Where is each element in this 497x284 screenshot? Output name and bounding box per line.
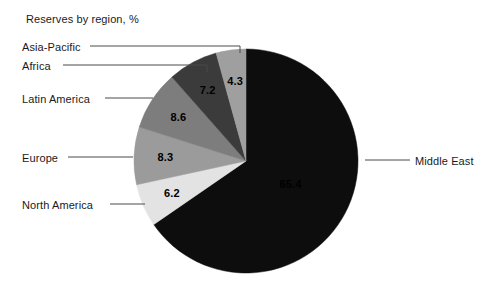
slice-value-africa: 7.2 bbox=[200, 84, 216, 96]
pie-chart-figure: Reserves by region, % 65.46.28.38.67.24.… bbox=[0, 0, 497, 284]
slice-value-middle-east: 65.4 bbox=[279, 178, 302, 190]
callout-label-north-america[interactable]: North America bbox=[22, 199, 93, 211]
callout-label-latin-america[interactable]: Latin America bbox=[22, 93, 90, 105]
callout-label-europe[interactable]: Europe bbox=[22, 152, 58, 164]
slice-value-latin-america: 8.6 bbox=[171, 111, 187, 123]
leader-line-asia-pacific bbox=[90, 46, 240, 53]
slice-value-north-america: 6.2 bbox=[164, 187, 180, 199]
callout-label-africa[interactable]: Africa bbox=[22, 60, 51, 72]
slice-value-asia-pacific: 4.3 bbox=[227, 75, 243, 87]
callout-label-middle-east[interactable]: Middle East bbox=[415, 155, 474, 167]
slice-value-europe: 8.3 bbox=[157, 151, 173, 163]
callout-label-asia-pacific[interactable]: Asia-Pacific bbox=[22, 41, 81, 53]
